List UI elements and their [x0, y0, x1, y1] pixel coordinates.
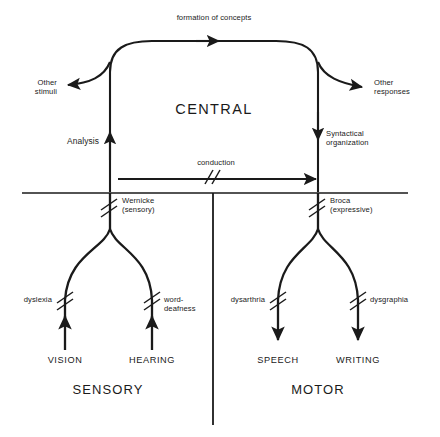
- dyslexia-label: dyslexia: [24, 296, 52, 305]
- word-deafness-label: word- deafness: [164, 296, 196, 313]
- dysarthria-label: dysarthria: [231, 296, 265, 305]
- formation-of-concepts-label: formation of concepts: [177, 14, 252, 23]
- syntactical-organization-label: Syntactical organization: [326, 130, 369, 147]
- hearing-label: HEARING: [129, 355, 175, 366]
- conduction-label: conduction: [197, 159, 235, 168]
- aphasia-pathway-diagram: formation of concepts Other stimuli Othe…: [0, 0, 440, 437]
- sensory-fork-right-limb: [110, 229, 152, 300]
- motor-fork-left-limb: [278, 229, 318, 300]
- vision-label: VISION: [48, 355, 83, 366]
- motor-fork-right-limb: [318, 229, 358, 300]
- other-stimuli-inflow-curve: [68, 62, 110, 85]
- central-region-title: CENTRAL: [175, 101, 252, 118]
- broca-label: Broca (expressive): [330, 197, 373, 214]
- wernicke-label: Wernicke (sensory): [122, 197, 155, 214]
- analysis-label: Analysis: [67, 137, 99, 147]
- writing-label: WRITING: [336, 355, 380, 366]
- diagram-canvas: [0, 0, 440, 437]
- other-responses-outflow-curve: [318, 62, 362, 87]
- left-shoulder-curve: [110, 41, 152, 72]
- conduction-lesion-slash: [205, 170, 220, 184]
- other-stimuli-label: Other stimuli: [35, 79, 57, 96]
- motor-section-label: MOTOR: [291, 383, 345, 398]
- right-shoulder-curve: [276, 41, 318, 72]
- speech-label: SPEECH: [257, 355, 298, 366]
- dysgraphia-label: dysgraphia: [370, 296, 408, 305]
- sensory-fork-left-limb: [65, 229, 110, 300]
- other-responses-label: Other responses: [374, 79, 410, 96]
- sensory-section-label: SENSORY: [72, 383, 143, 398]
